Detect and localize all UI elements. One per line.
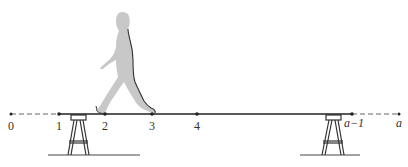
point-0 [10,113,13,116]
left-sawhorse-icon [68,115,89,155]
label-3: 3 [149,119,155,133]
walking-plank-diagram: 0 1 2 3 4 a−1 a [0,0,408,167]
point-1 [57,112,61,116]
label-a: a [396,116,402,130]
label-2: 2 [102,119,108,133]
point-2 [103,112,107,116]
point-3 [150,112,154,116]
label-0: 0 [8,119,14,133]
label-a-minus-1: a−1 [344,116,364,130]
point-4 [195,112,199,116]
right-sawhorse-icon [322,115,344,155]
label-4: 4 [194,119,200,133]
walking-person-icon [96,12,155,114]
label-1: 1 [56,119,62,133]
